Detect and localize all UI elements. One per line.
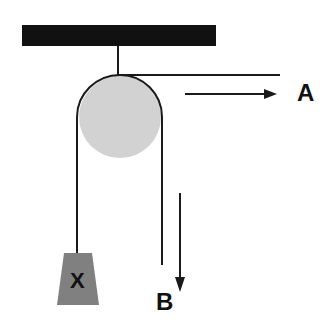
label-a: A	[297, 79, 314, 107]
pulley-wheel	[79, 76, 161, 158]
label-x: X	[70, 268, 85, 294]
arrow-b-icon	[175, 193, 185, 292]
ceiling-bar	[22, 25, 216, 46]
arrow-a-icon	[185, 89, 277, 99]
pulley-diagram	[0, 0, 331, 331]
label-b: B	[156, 288, 173, 316]
